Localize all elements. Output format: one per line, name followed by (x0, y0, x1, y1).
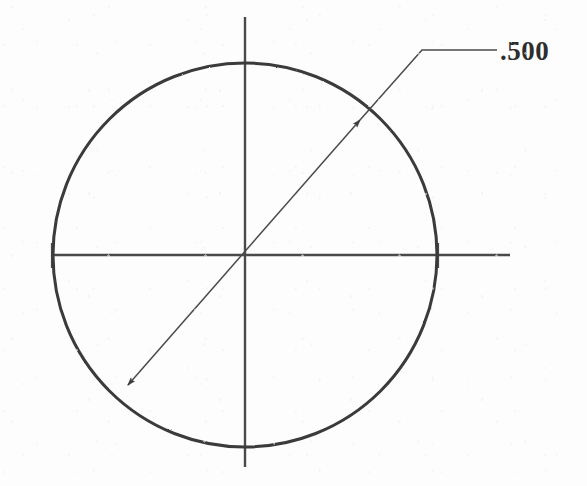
technical-drawing: .500 (0, 0, 587, 486)
drawing-canvas: .500 (0, 0, 587, 486)
diameter-value-label: .500 (500, 36, 549, 66)
paper-background (0, 0, 587, 486)
